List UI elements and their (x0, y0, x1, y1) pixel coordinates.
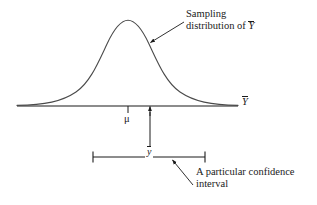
overbar (248, 21, 254, 22)
y-bar-symbol-axis: Y (242, 96, 248, 108)
confidence-interval-leader-arrow (173, 160, 194, 185)
sampling-distribution-label: Samplingdistribution of Y (186, 8, 254, 33)
mu-label: μ (124, 113, 130, 125)
y-bar-symbol-interval: y (147, 146, 151, 158)
y-bar-symbol: Y (248, 20, 254, 32)
overbar (242, 96, 248, 97)
confidence-interval-label-line2: interval (196, 178, 295, 190)
confidence-interval-label: A particular confidenceinterval (196, 166, 295, 191)
sampling-distribution-label-line1: Sampling (186, 8, 226, 19)
sampling-distribution-leader-arrow (151, 22, 185, 43)
sampling-distribution-label-line2: distribution of Y (186, 20, 254, 32)
interval-center-label-y-bar: y (145, 146, 153, 158)
sampling-distribution-curve (17, 20, 238, 105)
overbar (147, 146, 151, 147)
axis-label-y-bar: Y (242, 96, 248, 108)
confidence-interval-label-line1: A particular confidence (196, 166, 295, 177)
